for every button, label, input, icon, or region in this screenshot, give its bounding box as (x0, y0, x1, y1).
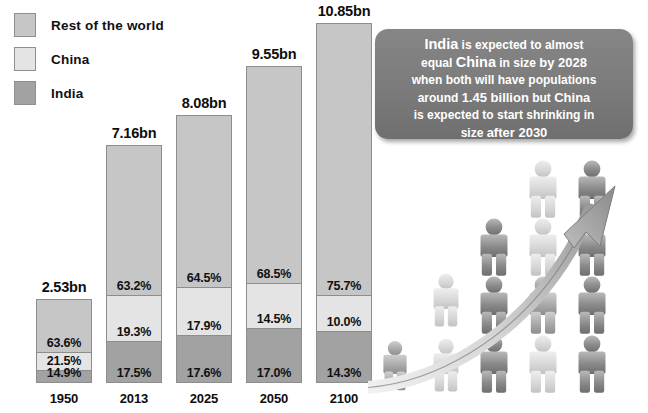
pictogram-illustration (368, 150, 648, 413)
legend-swatch-india (14, 81, 36, 105)
bar-group-2100: 10.85bn75.7%10.0%14.3%2100 (316, 0, 372, 413)
bar-segment-label: 19.3% (107, 325, 161, 339)
person-pictogram (481, 219, 508, 276)
bar-segment-china-2100[interactable]: 10.0% (317, 295, 371, 331)
bar-segment-china-2013[interactable]: 19.3% (107, 295, 161, 340)
bar-segment-label: 17.9% (177, 319, 231, 333)
person-pictogram (530, 161, 557, 218)
bar-segment-india-2013[interactable]: 17.5% (107, 341, 161, 382)
callout-line-6: size after 2030 (383, 124, 625, 142)
bar-total-label-2100: 10.85bn (316, 3, 372, 19)
x-axis-label-2013: 2013 (106, 391, 162, 406)
callout-line-5: is expected to start shrinking in (383, 106, 625, 124)
callout-box: India is expected to almostequal China i… (375, 29, 633, 139)
bar-segment-india-2025[interactable]: 17.6% (177, 335, 231, 382)
bar-total-label-2025: 8.08bn (176, 95, 232, 111)
x-axis-label-2025: 2025 (176, 391, 232, 406)
bar-stack-2013[interactable]: 63.2%19.3%17.5% (106, 145, 162, 383)
infographic-canvas: Rest of the world China India 2.53bn63.6… (0, 0, 648, 413)
bar-group-2050: 9.55bn68.5%14.5%17.0%2050 (246, 0, 302, 413)
bar-segment-rest-of-the-world-2050[interactable]: 68.5% (247, 67, 301, 283)
person-pictogram (434, 274, 459, 327)
bar-stack-2025[interactable]: 64.5%17.9%17.6% (176, 115, 232, 383)
bar-segment-label: 63.6% (37, 336, 91, 350)
bar-segment-china-2025[interactable]: 17.9% (177, 287, 231, 335)
x-axis-label-1950: 1950 (36, 391, 92, 406)
bar-segment-rest-of-the-world-2025[interactable]: 64.5% (177, 116, 231, 288)
bar-segment-label: 68.5% (247, 267, 301, 281)
legend-swatch-rest-of-the-world (14, 13, 36, 37)
bar-total-label-1950: 2.53bn (36, 279, 92, 295)
bar-segment-label: 14.3% (317, 366, 371, 380)
bar-segment-rest-of-the-world-2013[interactable]: 63.2% (107, 146, 161, 295)
person-pictogram (579, 336, 606, 393)
bar-segment-label: 64.5% (177, 271, 231, 285)
bar-segment-china-2050[interactable]: 14.5% (247, 283, 301, 329)
bar-segment-label: 10.0% (317, 315, 371, 329)
bar-segment-label: 17.0% (247, 366, 301, 380)
callout-line-1: India is expected to almost (383, 36, 625, 54)
bar-segment-label: 75.7% (317, 279, 371, 293)
person-pictogram (530, 336, 557, 393)
bar-group-2025: 8.08bn64.5%17.9%17.6%2025 (176, 0, 232, 413)
bar-segment-label: 63.2% (107, 279, 161, 293)
callout-line-4: around 1.45 billion but China (383, 89, 625, 107)
callout-line-3: when both will have populations (383, 71, 625, 89)
bar-segment-label: 14.9% (37, 366, 91, 380)
bar-segment-label: 17.5% (107, 366, 161, 380)
bar-segment-label: 17.6% (177, 366, 231, 380)
bar-segment-label: 14.5% (247, 312, 301, 326)
bar-segment-india-2050[interactable]: 17.0% (247, 328, 301, 382)
bar-total-label-2013: 7.16bn (106, 125, 162, 141)
bar-stack-1950[interactable]: 63.6%21.5%14.9% (36, 299, 92, 383)
bar-segment-rest-of-the-world-2100[interactable]: 75.7% (317, 24, 371, 295)
x-axis-label-2050: 2050 (246, 391, 302, 406)
person-pictogram (579, 277, 606, 334)
bar-segment-rest-of-the-world-1950[interactable]: 63.6% (37, 300, 91, 352)
bar-segment-india-2100[interactable]: 14.3% (317, 331, 371, 382)
bar-group-1950: 2.53bn63.6%21.5%14.9%1950 (36, 0, 92, 413)
bar-segment-india-1950[interactable]: 14.9% (37, 370, 91, 382)
bar-total-label-2050: 9.55bn (246, 46, 302, 62)
callout-line-2: equal China in size by 2028 (383, 54, 625, 72)
bar-group-2013: 7.16bn63.2%19.3%17.5%2013 (106, 0, 162, 413)
legend-swatch-china (14, 47, 36, 71)
bar-stack-2050[interactable]: 68.5%14.5%17.0% (246, 66, 302, 383)
callout-text: India is expected to almostequal China i… (383, 36, 625, 141)
bar-stack-2100[interactable]: 75.7%10.0%14.3% (316, 23, 372, 383)
x-axis-label-2100: 2100 (316, 391, 372, 406)
